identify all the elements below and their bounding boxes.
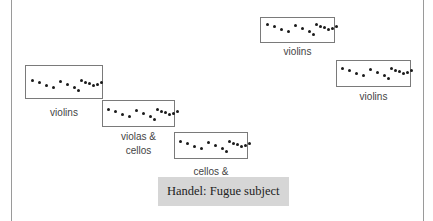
entry-label-violas-cellos: violas & cellos (102, 130, 175, 158)
note-dot (179, 140, 182, 143)
note-dot (77, 89, 80, 92)
note-dot (398, 70, 401, 73)
note-dot (172, 112, 175, 115)
note-dot (45, 84, 48, 87)
subject-entry-box-violins-3 (336, 60, 411, 87)
subject-entry-box-violins-1 (25, 65, 103, 99)
note-dot (66, 83, 69, 86)
caption-text: Handel: Fugue subject (167, 184, 279, 199)
note-dot (280, 28, 283, 31)
note-dot (186, 142, 189, 145)
note-dot (193, 145, 196, 148)
note-dot (149, 115, 152, 118)
note-dot (135, 109, 138, 112)
note-dot (394, 69, 397, 72)
note-dot (160, 110, 163, 113)
note-dot (59, 80, 62, 83)
note-dot (73, 86, 76, 89)
note-dot (266, 23, 269, 26)
note-dot (287, 30, 290, 33)
note-dot (236, 143, 239, 146)
note-dot (88, 82, 91, 85)
note-dot (341, 67, 344, 70)
note-dot (355, 72, 358, 75)
subject-entry-box-violins-2 (260, 17, 335, 43)
note-dot (92, 84, 95, 87)
note-dot (232, 142, 235, 145)
note-dot (335, 25, 338, 28)
note-dot (294, 24, 297, 27)
note-dot (319, 25, 322, 28)
note-dot (164, 111, 167, 114)
note-dot (323, 26, 326, 29)
note-dot (331, 27, 334, 30)
entry-label-violins-3: violins (336, 90, 411, 104)
note-dot (362, 74, 365, 77)
note-dot (244, 144, 247, 147)
note-dot (301, 27, 304, 30)
note-dot (410, 69, 413, 72)
note-dot (107, 108, 110, 111)
note-dot (31, 79, 34, 82)
note-dot (402, 72, 405, 75)
left-border-line (11, 0, 12, 221)
note-dot (348, 69, 351, 72)
note-dot (383, 74, 386, 77)
note-dot (390, 67, 393, 70)
note-dot (248, 142, 251, 145)
note-dot (168, 113, 171, 116)
note-dot (207, 141, 210, 144)
note-dot (100, 81, 103, 84)
note-dot (84, 81, 87, 84)
note-dot (176, 110, 179, 113)
note-dot (52, 86, 55, 89)
note-dot (142, 112, 145, 115)
caption-box: Handel: Fugue subject (158, 177, 289, 206)
note-dot (308, 30, 311, 33)
note-dot (214, 144, 217, 147)
note-dot (121, 113, 124, 116)
note-dot (240, 145, 243, 148)
note-dot (80, 79, 83, 82)
note-dot (327, 28, 330, 31)
note-dot (312, 33, 315, 36)
note-dot (156, 108, 159, 111)
right-border-line (423, 0, 424, 221)
note-dot (273, 25, 276, 28)
note-dot (376, 71, 379, 74)
note-dot (128, 115, 131, 118)
note-dot (406, 71, 409, 74)
note-dot (221, 147, 224, 150)
note-dot (225, 150, 228, 153)
entry-label-violins-1: violins (25, 106, 103, 120)
note-dot (369, 68, 372, 71)
note-dot (96, 83, 99, 86)
note-dot (228, 140, 231, 143)
note-dot (114, 110, 117, 113)
note-dot (387, 77, 390, 80)
note-dot (38, 81, 41, 84)
entry-label-violins-2: violins (260, 45, 335, 59)
note-dot (153, 118, 156, 121)
note-dot (315, 23, 318, 26)
note-dot (200, 147, 203, 150)
